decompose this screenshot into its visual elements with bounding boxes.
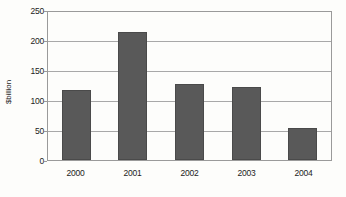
bar-2004[interactable] [288, 128, 317, 160]
bar-2000[interactable] [62, 90, 91, 160]
x-tick-label-2003: 2003 [218, 166, 275, 180]
bar-2001[interactable] [118, 32, 147, 160]
x-tick-label-2000: 2000 [47, 166, 104, 180]
bar-slot-2002 [161, 12, 218, 160]
y-tick-label-200: 200 [14, 37, 44, 46]
y-tick-label-150: 150 [14, 67, 44, 76]
x-axis-tick-labels: 2000 2001 2002 2003 2004 [47, 166, 332, 180]
bars-layer [48, 12, 331, 160]
y-axis-tick-labels: 0 50 100 150 200 250 [14, 0, 44, 197]
y-tick-label-50: 50 [14, 127, 44, 136]
x-tick-label-2004: 2004 [275, 166, 332, 180]
x-tick-label-2002: 2002 [161, 166, 218, 180]
bar-slot-2001 [105, 12, 162, 160]
bar-slot-2003 [218, 12, 275, 160]
bar-2002[interactable] [175, 84, 204, 160]
bar-slot-2000 [48, 12, 105, 160]
bar-2003[interactable] [232, 87, 261, 160]
y-tick-label-250: 250 [14, 7, 44, 16]
y-tick-label-0: 0 [14, 157, 44, 166]
plot-area [47, 11, 332, 161]
bar-chart-figure: $billion 0 50 100 150 200 250 [0, 0, 346, 197]
bar-slot-2004 [274, 12, 331, 160]
x-tick-label-2001: 2001 [104, 166, 161, 180]
y-tick-mark-0 [44, 161, 47, 162]
y-tick-label-100: 100 [14, 97, 44, 106]
